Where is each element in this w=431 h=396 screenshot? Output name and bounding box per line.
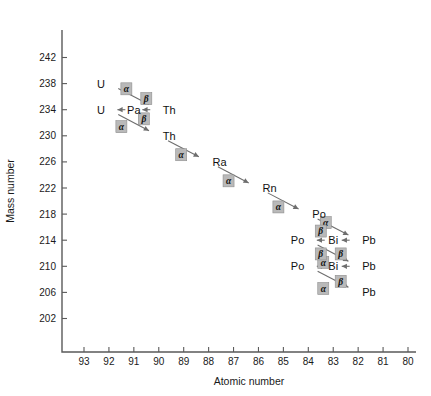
y-tick-label: 206 <box>39 287 56 298</box>
x-tick-label: 82 <box>353 356 365 367</box>
x-tick-label: 85 <box>278 356 290 367</box>
x-tick-label: 88 <box>203 356 215 367</box>
y-tick-label: 218 <box>39 209 56 220</box>
x-tick-label: 90 <box>153 356 165 367</box>
x-tick-label: 80 <box>402 356 414 367</box>
nuclide-label: Th <box>163 104 176 116</box>
nuclide-label: Th <box>163 130 176 142</box>
plot-canvas: 9392919089888786858483828180 24223823423… <box>0 0 431 396</box>
nuclide-label: Po <box>291 234 304 246</box>
y-tick-label: 238 <box>39 78 56 89</box>
y-tick-label: 202 <box>39 313 56 324</box>
decay-arrowhead <box>117 107 122 112</box>
x-tick-label: 92 <box>103 356 115 367</box>
decay-arrowhead <box>317 238 322 243</box>
decay-symbol-beta: β <box>140 114 146 124</box>
x-tick-label: 83 <box>328 356 340 367</box>
nuclide-label: Pb <box>362 234 375 246</box>
y-axis-title: Mass number <box>4 159 16 223</box>
y-tick-group: 242238234230226222218214210206202 <box>39 52 67 324</box>
decay-symbol-beta: β <box>337 277 343 287</box>
decay-symbol-alpha: α <box>226 176 232 186</box>
x-tick-group: 9392919089888786858483828180 <box>78 347 414 367</box>
decay-label-group: αββαααααββαββα <box>116 83 346 295</box>
x-tick-label: 89 <box>178 356 190 367</box>
nuclide-label: Ra <box>213 156 228 168</box>
nuclide-label: Po <box>312 208 325 220</box>
x-tick-label: 81 <box>378 356 390 367</box>
x-tick-label: 87 <box>228 356 240 367</box>
decay-symbol-alpha: α <box>179 150 185 160</box>
decay-arrowhead <box>342 264 347 269</box>
x-tick-label: 93 <box>78 356 90 367</box>
axis-lines <box>62 30 416 352</box>
nuclide-label: Rn <box>262 182 276 194</box>
decay-symbol-alpha: α <box>119 122 125 132</box>
decay-symbol-alpha: α <box>321 284 327 294</box>
y-tick-label: 230 <box>39 130 56 141</box>
decay-arrowhead <box>342 238 347 243</box>
nuclide-label-group: UThPaUThRaRnPoPbBiPoPbBiPoPb <box>97 78 376 299</box>
nuclide-label: U <box>97 104 105 116</box>
y-tick-label: 234 <box>39 104 56 115</box>
decay-arrow-group <box>117 88 349 287</box>
decay-symbol-beta: β <box>317 249 323 259</box>
y-tick-label: 222 <box>39 183 56 194</box>
y-tick-label: 214 <box>39 235 56 246</box>
nuclide-label: Po <box>291 260 304 272</box>
decay-series-chart: 9392919089888786858483828180 24223823423… <box>0 0 431 396</box>
y-tick-label: 226 <box>39 156 56 167</box>
x-tick-label: 91 <box>128 356 140 367</box>
y-tick-label: 210 <box>39 261 56 272</box>
y-tick-label: 242 <box>39 52 56 63</box>
x-tick-label: 86 <box>253 356 265 367</box>
decay-symbol-beta: β <box>317 226 323 236</box>
decay-symbol-alpha: α <box>276 202 282 212</box>
x-tick-label: 84 <box>303 356 315 367</box>
nuclide-label: Bi <box>328 260 338 272</box>
decay-symbol-alpha: α <box>124 84 130 94</box>
nuclide-label: U <box>97 78 105 90</box>
nuclide-label: Pb <box>362 286 375 298</box>
nuclide-label: Pa <box>127 104 141 116</box>
decay-symbol-beta: β <box>337 249 343 259</box>
decay-symbol-beta: β <box>143 94 149 104</box>
decay-arrowhead <box>142 107 147 112</box>
x-axis-title: Atomic number <box>214 375 285 387</box>
axes-group <box>62 30 416 352</box>
nuclide-label: Bi <box>328 234 338 246</box>
nuclide-label: Pb <box>362 260 375 272</box>
